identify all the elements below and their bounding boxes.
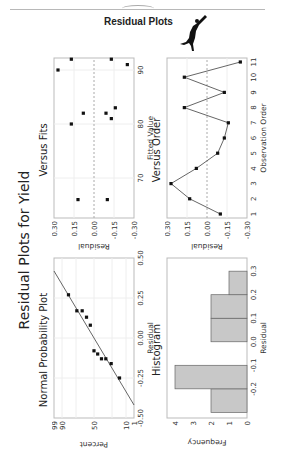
svg-text:3: 3 <box>250 181 258 185</box>
svg-text:4: 4 <box>250 166 258 171</box>
data-point <box>219 212 222 215</box>
data-point <box>82 112 85 115</box>
histogram-plot: -0.2-0.10.00.10.20.3 01234 Residual Freq… <box>165 250 268 450</box>
histogram-bar <box>211 295 247 319</box>
svg-text:-0.2: -0.2 <box>250 382 258 396</box>
data-point <box>110 117 113 120</box>
svg-text:0.00: 0.00 <box>137 330 145 346</box>
data-point <box>56 68 59 71</box>
data-point <box>81 309 84 312</box>
y-axis-label: Residual <box>78 242 110 250</box>
y-axis-label: Frequency <box>187 438 226 447</box>
data-point <box>85 316 88 319</box>
svg-text:0.25: 0.25 <box>137 290 145 306</box>
data-point <box>183 76 186 79</box>
x-axis-label: Residual <box>259 322 268 354</box>
svg-text:0.00: 0.00 <box>204 221 212 237</box>
data-point <box>67 293 70 296</box>
svg-text:4: 4 <box>172 420 180 425</box>
data-point <box>76 198 79 201</box>
data-point <box>89 324 92 327</box>
svg-text:0.0: 0.0 <box>250 336 258 347</box>
residual-plots-figure: Residual Plots for Yield Normal Probabil… <box>0 0 282 450</box>
svg-text:-0.25: -0.25 <box>137 369 145 387</box>
data-point <box>92 349 95 352</box>
svg-text:2: 2 <box>208 421 216 425</box>
svg-text:0.00: 0.00 <box>91 221 99 237</box>
svg-text:5: 5 <box>250 151 258 155</box>
svg-text:9: 9 <box>250 90 258 94</box>
panel-title: Versus Order <box>151 50 162 250</box>
histogram-bar <box>211 318 247 342</box>
data-point <box>96 352 99 355</box>
data-point <box>223 91 226 94</box>
data-point <box>188 197 191 200</box>
versus-fits-plot: 708090 0.300.150.00-0.15-0.30 Fitted Val… <box>52 50 155 250</box>
data-point <box>110 362 113 365</box>
figure-title: Residual Plots for Yield <box>16 50 32 450</box>
svg-text:-0.30: -0.30 <box>244 221 252 239</box>
svg-text:-0.30: -0.30 <box>131 221 139 239</box>
data-point <box>216 152 219 155</box>
svg-text:2: 2 <box>250 197 258 201</box>
y-axis-label: Residual <box>191 242 223 250</box>
svg-text:0.15: 0.15 <box>71 221 79 237</box>
svg-text:-0.15: -0.15 <box>111 221 119 239</box>
data-point <box>110 58 113 61</box>
data-point <box>104 112 107 115</box>
svg-text:0.3: 0.3 <box>250 266 258 277</box>
svg-text:0.30: 0.30 <box>52 221 59 237</box>
data-point <box>70 58 73 61</box>
data-point <box>75 309 78 312</box>
svg-text:7: 7 <box>250 121 258 125</box>
panel-title: Versus Fits <box>38 50 49 250</box>
svg-text:6: 6 <box>250 135 258 140</box>
svg-text:50: 50 <box>91 421 99 430</box>
data-point <box>106 198 109 201</box>
svg-text:10: 10 <box>123 421 131 430</box>
x-axis-label: Observation Order <box>259 102 268 172</box>
svg-text:10: 10 <box>250 73 258 82</box>
data-point <box>183 106 186 109</box>
svg-text:0.1: 0.1 <box>250 313 258 324</box>
data-point <box>195 167 198 170</box>
data-point <box>70 122 73 125</box>
svg-text:90: 90 <box>137 66 145 75</box>
data-point <box>104 357 107 360</box>
data-point <box>118 376 121 379</box>
data-point <box>227 121 230 124</box>
svg-text:80: 80 <box>137 120 145 129</box>
panel-title: Normal Probability Plot <box>38 250 49 450</box>
svg-text:11: 11 <box>250 58 258 67</box>
svg-text:1: 1 <box>226 421 234 425</box>
data-point <box>100 357 103 360</box>
versus-order-plot: 1234567891011 0.300.150.00-0.15-0.30 Obs… <box>165 50 268 250</box>
figure-rotated-canvas: Residual Plots for Yield Normal Probabil… <box>16 50 266 450</box>
svg-text:0.30: 0.30 <box>165 221 172 237</box>
normal-probability-plot: -0.50-0.250.000.250.50 110509099 Residua… <box>52 250 155 450</box>
panel-versus-order: Versus Order 1234567891011 0.300.150.00-… <box>151 50 266 250</box>
panel-title: Histogram <box>151 250 162 450</box>
svg-text:3: 3 <box>190 421 198 425</box>
svg-text:-0.15: -0.15 <box>224 221 232 239</box>
data-point <box>126 63 129 66</box>
data-point <box>239 60 242 63</box>
panel-versus-fits: Versus Fits 708090 0.300.150.00-0.15-0.3… <box>38 50 153 250</box>
svg-text:0.50: 0.50 <box>137 250 145 266</box>
svg-text:99: 99 <box>52 421 59 430</box>
svg-text:0.2: 0.2 <box>250 289 258 300</box>
panel-histogram: Histogram -0.2-0.10.00.10.20.3 01234 Res… <box>151 250 266 450</box>
svg-text:1: 1 <box>131 421 139 425</box>
svg-text:1: 1 <box>250 212 258 216</box>
data-point <box>114 106 117 109</box>
data-point <box>223 136 226 139</box>
svg-text:0: 0 <box>244 421 252 425</box>
svg-text:90: 90 <box>59 421 67 430</box>
svg-text:-0.1: -0.1 <box>250 358 258 372</box>
histogram-bar <box>175 365 247 389</box>
svg-text:8: 8 <box>250 105 258 109</box>
histogram-bar <box>229 271 247 295</box>
data-point <box>169 182 172 185</box>
panel-normal-probability: Normal Probability Plot -0.50-0.250.000.… <box>38 250 153 450</box>
histogram-bar <box>211 389 247 413</box>
